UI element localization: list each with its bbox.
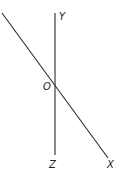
label-z: Z	[48, 159, 57, 170]
label-origin: O	[43, 81, 51, 92]
label-x: X	[106, 159, 115, 170]
label-y: Y	[59, 11, 66, 22]
axes-diagram: Y O Z X	[0, 0, 130, 182]
